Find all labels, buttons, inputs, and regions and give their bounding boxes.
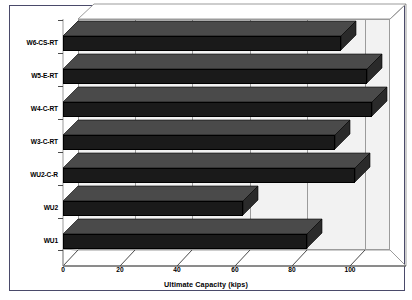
x-tick-label-20: 20 [108, 266, 132, 273]
x-axis-title: Ultimate Capacity (kips) [0, 280, 412, 289]
x-tick-label-100: 100 [338, 266, 362, 273]
y-tick [58, 86, 63, 87]
cat-label-W3-C-RT: W3-C-RT [0, 138, 58, 145]
x-tick-label-60: 60 [223, 266, 247, 273]
y-tick [58, 119, 63, 120]
y-tick [58, 20, 63, 21]
x-tick-label-80: 80 [280, 266, 304, 273]
y-tick [58, 185, 63, 186]
cat-label-WU1: WU1 [0, 237, 58, 244]
cat-label-W4-C-RT: W4-C-RT [0, 105, 58, 112]
x-tick-label-40: 40 [165, 266, 189, 273]
bar-3d-shading [0, 0, 412, 300]
y-tick [58, 250, 63, 251]
y-tick [58, 218, 63, 219]
cat-label-WU2-C-R: WU2-C-R [0, 171, 58, 178]
y-tick [58, 53, 63, 54]
bar-series [0, 0, 412, 300]
cat-label-W6-CS-RT: W6-CS-RT [0, 39, 58, 46]
chart-figure: W6-CS-RT W5-E-RT W4-C-RT W3-C-RT WU2-C-R… [0, 0, 412, 300]
cat-label-WU2: WU2 [0, 204, 58, 211]
y-tick [58, 152, 63, 153]
cat-label-W5-E-RT: W5-E-RT [0, 72, 58, 79]
x-tick-label-0: 0 [51, 266, 75, 273]
